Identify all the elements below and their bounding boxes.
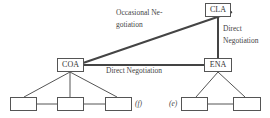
- edge-label-occasional-negotiation-line2: gotiation: [116, 19, 143, 30]
- node-left-child-1: [10, 97, 37, 111]
- node-coa: COA: [57, 58, 84, 72]
- edge-label-occasional-negotiation-line1: Occasional Ne-: [116, 7, 162, 18]
- edge-label-direct-negotiation-vertical-line1: Direct: [223, 23, 242, 34]
- edge-coa-cla: [83, 12, 232, 63]
- edge-label-direct-negotiation-horizontal: Direct Negotiation: [106, 65, 162, 76]
- edge-coa-child1: [24, 72, 70, 97]
- edge-ena-child2: [218, 72, 245, 97]
- node-ena: ENA: [204, 58, 232, 72]
- node-left-child-2: [57, 97, 84, 111]
- node-cla: CLA: [205, 3, 231, 17]
- node-left-child-3: [105, 97, 132, 111]
- subgroup-marker-f: (f): [135, 98, 142, 109]
- node-right-child-1: [181, 97, 208, 111]
- node-right-child-2: [233, 97, 261, 111]
- edge-label-direct-negotiation-vertical-line2: Negotiation: [223, 35, 258, 46]
- subgroup-marker-e: (e): [169, 98, 177, 109]
- edge-ena-child1: [196, 72, 218, 97]
